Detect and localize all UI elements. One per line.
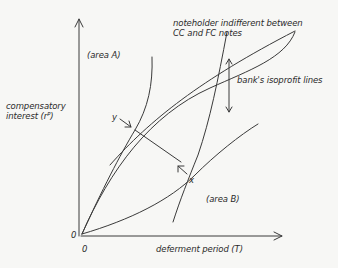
- origin-x-label: 0: [82, 244, 87, 254]
- y-axis-label-line1: compensatory: [6, 101, 66, 111]
- diagram-canvas: [0, 0, 338, 268]
- area-b-label: (area B): [206, 194, 240, 204]
- isoprofit-label: bank's isoprofit lines: [237, 75, 322, 85]
- y-axis-label-line2: interest (rᴾ): [6, 111, 54, 121]
- isoprofit-line-left: [82, 57, 152, 234]
- indifference-curve-main: [82, 31, 295, 234]
- indifference-curve-upper: [82, 32, 295, 234]
- y-x-connector: [135, 130, 181, 162]
- x-pointer-arrow: [178, 166, 187, 174]
- indifference-curve-a: [82, 32, 295, 234]
- area-a-label: (area A): [87, 50, 121, 60]
- noteholder-indifference-curve: [115, 32, 295, 164]
- indifference-label-line2: CC and FC notes: [173, 28, 242, 38]
- x-axis-label: deferment period (T): [156, 244, 243, 254]
- indifference-label-line1: noteholder indifferent between: [173, 18, 303, 28]
- origin-y-label: 0: [71, 230, 76, 240]
- noteholder-indifference-curve-2: [110, 31, 295, 165]
- point-y-label: y: [112, 112, 117, 122]
- point-x-label: x: [189, 175, 194, 185]
